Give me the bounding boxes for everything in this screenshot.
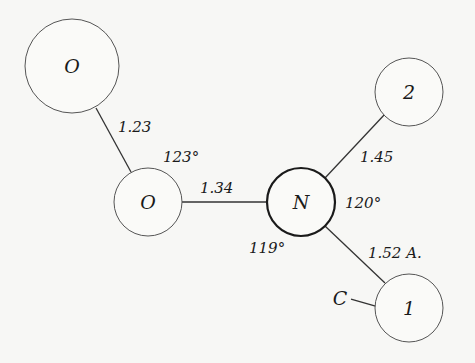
- atom-label-2: 2: [402, 81, 415, 103]
- angle-o: 123°: [163, 148, 199, 166]
- bond-length-o-o: 1.23: [118, 118, 151, 136]
- bond-length-o-n: 1.34: [200, 179, 233, 197]
- atom-label-c: C: [333, 287, 348, 309]
- atom-label-1: 1: [403, 297, 415, 319]
- angle-n-right: 120°: [345, 194, 381, 212]
- angle-n-lower: 119°: [249, 239, 285, 257]
- atom-label-n: N: [292, 191, 311, 213]
- molecule-diagram: O O N 2 1 C 1.23 1.34 1.45 1.52 A. 123° …: [0, 0, 475, 363]
- bond-n-c2: [325, 114, 385, 178]
- bond-length-n-c1: 1.52 A.: [368, 244, 422, 262]
- atom-label-o-middle: O: [140, 191, 156, 213]
- atom-label-o-top: O: [64, 55, 80, 77]
- bond-length-n-c2: 1.45: [360, 148, 393, 166]
